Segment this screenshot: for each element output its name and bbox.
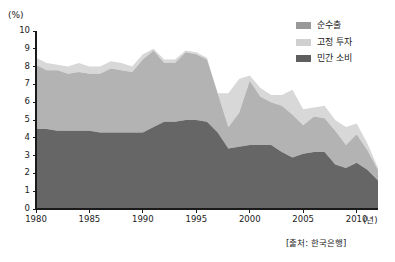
legend-label-private-consumption: 민간 소비: [317, 53, 352, 64]
y-tick-label: 6: [10, 96, 30, 106]
x-tick-label: 1990: [126, 214, 160, 224]
y-tick-label: 5: [10, 114, 30, 124]
legend-item-private-consumption: 민간 소비: [296, 53, 352, 64]
legend-item-fixed-investment: 고정 투자: [296, 37, 352, 48]
y-tick-label: 1: [10, 185, 30, 195]
y-tick-label: 2: [10, 167, 30, 177]
x-tick-label: 1995: [179, 214, 213, 224]
x-tick-label: 1980: [19, 214, 53, 224]
legend-swatch-net-exports: [296, 22, 311, 29]
x-tick-label: 2005: [286, 214, 320, 224]
y-tick-label: 9: [10, 43, 30, 53]
x-tick-label: 1985: [72, 214, 106, 224]
y-tick-label: 8: [10, 61, 30, 71]
chart-figure: (%) 012345678910 19801985199019952000200…: [0, 0, 395, 262]
chart-legend: 순수출 고정 투자 민간 소비: [296, 20, 352, 70]
source-note: [출처: 한국은행]: [286, 236, 346, 248]
legend-item-net-exports: 순수출: [296, 20, 352, 31]
x-tick-label: 2000: [233, 214, 267, 224]
y-tick-label: 7: [10, 78, 30, 88]
legend-label-fixed-investment: 고정 투자: [317, 37, 352, 48]
y-tick-label: 10: [10, 25, 30, 35]
y-tick-label: 0: [10, 203, 30, 213]
legend-swatch-fixed-investment: [296, 39, 311, 46]
area-series-group: [36, 49, 378, 209]
y-tick-label: 3: [10, 150, 30, 160]
legend-label-net-exports: 순수출: [317, 20, 341, 31]
y-tick-label: 4: [10, 132, 30, 142]
x-axis-unit-label: (년): [363, 213, 378, 225]
legend-swatch-private-consumption: [296, 55, 311, 62]
